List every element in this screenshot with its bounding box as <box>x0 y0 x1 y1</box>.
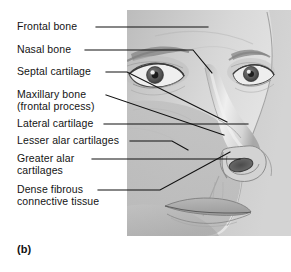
label-lesser-alar-cartilages: Lesser alar cartilages <box>17 135 119 147</box>
face-image <box>127 10 291 236</box>
label-dense-fibrous-line1: Dense fibrous <box>17 183 83 195</box>
figure-caption: (b) <box>17 243 31 255</box>
label-lesser-alar-cartilages-line1: Lesser alar cartilages <box>17 134 119 146</box>
label-lateral-cartilage-line1: Lateral cartilage <box>17 117 93 129</box>
label-septal-cartilage: Septal cartilage <box>17 66 91 78</box>
label-maxillary-bone-line1: Maxillary bone <box>17 88 86 100</box>
label-dense-fibrous-connective-tissue: Dense fibrous connective tissue <box>17 184 99 207</box>
label-lateral-cartilage: Lateral cartilage <box>17 118 93 130</box>
figure-anatomy-of-nose: Frontal bone Nasal bone Septal cartilage… <box>0 0 291 272</box>
label-greater-alar-cartilages-line1: Greater alar <box>17 152 74 164</box>
label-maxillary-bone: Maxillary bone (frontal process) <box>17 89 95 112</box>
face-drawing <box>127 10 291 236</box>
label-greater-alar-cartilages: Greater alar cartilages <box>17 153 74 176</box>
label-maxillary-bone-line2: (frontal process) <box>17 101 95 113</box>
label-nasal-bone-line1: Nasal bone <box>17 43 71 55</box>
label-septal-cartilage-line1: Septal cartilage <box>17 65 91 77</box>
face-illustration <box>127 10 291 236</box>
label-frontal-bone: Frontal bone <box>17 21 77 33</box>
label-greater-alar-cartilages-line2: cartilages <box>17 165 74 177</box>
label-nasal-bone: Nasal bone <box>17 44 71 56</box>
label-dense-fibrous-line2: connective tissue <box>17 196 99 208</box>
label-frontal-bone-line1: Frontal bone <box>17 20 77 32</box>
